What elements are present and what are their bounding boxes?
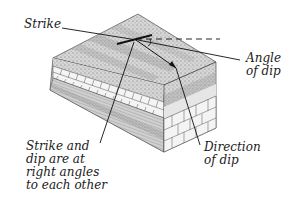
right-angles-note-label: Strike and dip are at right angles to ea… [26, 140, 107, 192]
strike-label-text: Strike [24, 18, 61, 31]
direction-of-dip-label: Direction of dip [204, 141, 261, 167]
angle-of-dip-label: Angle of dip [246, 52, 281, 78]
direction-of-dip-line-2: of dip [204, 154, 261, 167]
strike-label: Strike [24, 18, 61, 31]
angle-of-dip-line-2: of dip [246, 65, 281, 78]
note-line-4: to each other [26, 179, 107, 192]
strike-dip-diagram: Strike Angle of dip Direction of dip Str… [0, 0, 302, 199]
